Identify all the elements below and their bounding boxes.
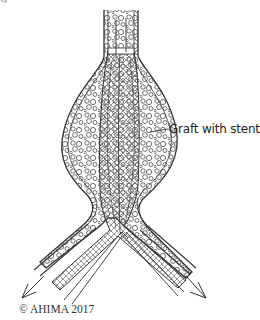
aneurysm-graft-illustration: [0, 0, 260, 320]
flow-arrow-left-icon: [22, 276, 44, 298]
graft-with-stent-label: Graft with stent: [169, 122, 260, 136]
copyright-notice: © AHIMA 2017: [19, 303, 94, 315]
flow-arrow-right-icon: [186, 276, 206, 298]
